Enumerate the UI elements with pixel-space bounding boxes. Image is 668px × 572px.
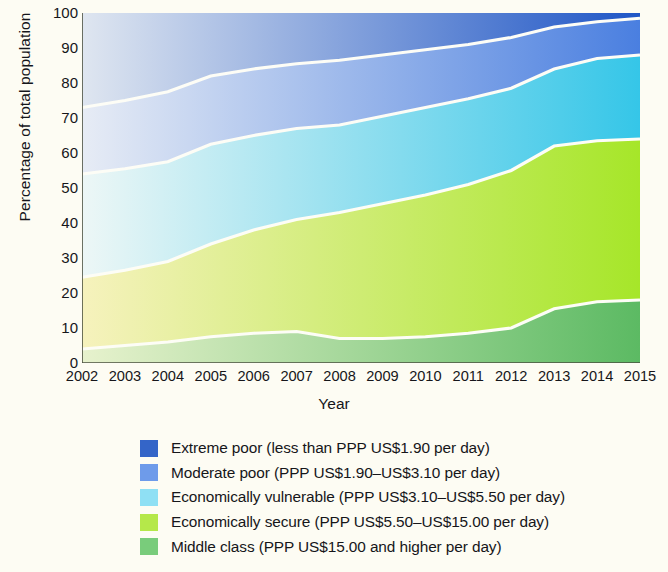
x-tick-label: 2002 [59, 369, 105, 384]
y-tick-label: 30 [34, 250, 78, 265]
legend-swatch-extreme-poor [140, 440, 158, 457]
stacked-area-chart: Percentage of total population 100908070… [0, 0, 668, 572]
legend-item: Moderate poor (PPP US$1.90–US$3.10 per d… [140, 461, 660, 486]
legend-item: Extreme poor (less than PPP US$1.90 per … [140, 436, 660, 461]
legend-swatch-middle-class [140, 538, 158, 555]
x-tick-label: 2007 [274, 369, 320, 384]
x-tick-label: 2003 [102, 369, 148, 384]
x-tick-label: 2014 [574, 369, 620, 384]
x-tick-label: 2004 [145, 369, 191, 384]
y-tick-label: 20 [34, 285, 78, 300]
y-tick-label: 70 [34, 110, 78, 125]
legend-swatch-economically-vulnerable [140, 489, 158, 506]
legend-label: Economically vulnerable (PPP US$3.10–US$… [171, 488, 565, 506]
legend-label: Extreme poor (less than PPP US$1.90 per … [171, 439, 490, 457]
x-tick-label: 2008 [317, 369, 363, 384]
x-tick-label: 2011 [445, 369, 491, 384]
y-tick-label: 100 [34, 5, 78, 20]
x-tick-label: 2006 [231, 369, 277, 384]
x-tick-label: 2015 [617, 369, 663, 384]
y-tick-label: 60 [34, 145, 78, 160]
legend-swatch-economically-secure [140, 514, 158, 531]
x-axis-tick-labels: 2002200320042005200620072008200920102011… [82, 369, 640, 393]
x-tick-label: 2012 [488, 369, 534, 384]
legend-label: Moderate poor (PPP US$1.90–US$3.10 per d… [171, 464, 500, 482]
legend-swatch-moderate-poor [140, 464, 158, 481]
legend-item: Economically vulnerable (PPP US$3.10–US$… [140, 485, 660, 510]
y-tick-label: 10 [34, 320, 78, 335]
legend-item: Economically secure (PPP US$5.50–US$15.0… [140, 510, 660, 535]
legend-label: Economically secure (PPP US$5.50–US$15.0… [171, 513, 549, 531]
y-tick-label: 90 [34, 40, 78, 55]
y-tick-label: 50 [34, 180, 78, 195]
x-tick-label: 2005 [188, 369, 234, 384]
x-tick-label: 2010 [402, 369, 448, 384]
x-tick-label: 2013 [531, 369, 577, 384]
chart-legend: Extreme poor (less than PPP US$1.90 per … [140, 436, 660, 559]
x-axis-title: Year [318, 395, 350, 412]
legend-item: Middle class (PPP US$15.00 and higher pe… [140, 534, 660, 559]
y-axis-tick-labels: 1009080706050403020100 [26, 0, 78, 376]
plot-area [82, 13, 640, 363]
y-tick-label: 40 [34, 215, 78, 230]
x-tick-label: 2009 [359, 369, 405, 384]
y-tick-label: 80 [34, 75, 78, 90]
legend-label: Middle class (PPP US$15.00 and higher pe… [171, 538, 501, 556]
x-axis-title-container: Year [0, 395, 668, 413]
